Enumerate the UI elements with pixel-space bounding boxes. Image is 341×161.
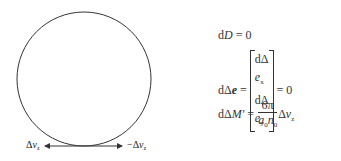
equation-dD: dD = 0	[218, 28, 251, 43]
label-delta-vz-right: −Δvz	[127, 139, 146, 151]
orbit-circle	[17, 12, 151, 146]
label-delta-vz-left: Δvz	[26, 139, 40, 151]
fraction: 6πa0n0	[258, 98, 277, 132]
equation-d-delta-M: dΔM′ = 6πa0n0Δvz	[218, 98, 294, 132]
